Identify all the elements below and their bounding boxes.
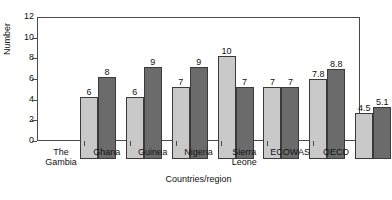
y-tick-mark xyxy=(32,58,37,59)
bar-value-label: 7 xyxy=(178,78,183,87)
bar: 9 xyxy=(190,67,208,159)
x-tick-mark xyxy=(267,141,268,146)
y-tick-mark xyxy=(32,38,37,39)
bar-chart-figure: Number 686979107777.88.84.55.1 Countries… xyxy=(0,0,392,200)
y-tick-label: 12 xyxy=(14,12,34,21)
y-tick-mark xyxy=(32,79,37,80)
y-tick-mark xyxy=(32,120,37,121)
x-tick-label: Ghana xyxy=(84,147,130,157)
bar-value-label: 7 xyxy=(242,78,247,87)
bar-value-label: 7 xyxy=(270,78,275,87)
bar-value-label: 8.8 xyxy=(330,60,343,69)
y-tick-label: 4 xyxy=(14,95,34,104)
x-tick-mark xyxy=(84,141,85,146)
bar: 5.1 xyxy=(373,107,391,159)
y-axis-title: Number xyxy=(0,9,14,69)
x-tick-mark xyxy=(130,141,131,146)
bar-group: 68 xyxy=(76,36,122,159)
bar-value-label: 7.8 xyxy=(312,70,325,79)
x-tick-label: Nigeria xyxy=(176,147,222,157)
bar-group: 4.55.1 xyxy=(351,36,392,159)
bar-value-label: 6 xyxy=(132,88,137,97)
x-tick-mark xyxy=(221,141,222,146)
bar-value-label: 8 xyxy=(104,68,109,77)
plot-area: 686979107777.88.84.55.1 xyxy=(37,17,360,141)
x-tick-label: ECOWAS xyxy=(267,147,313,157)
bar: 9 xyxy=(144,67,162,159)
y-tick-label: 6 xyxy=(14,74,34,83)
y-tick-mark xyxy=(32,141,37,142)
x-tick-label: Guinea xyxy=(130,147,176,157)
x-tick-label: The Gambia xyxy=(38,147,84,167)
bar-value-label: 9 xyxy=(150,58,155,67)
x-tick-mark xyxy=(176,141,177,146)
bar-value-label: 5.1 xyxy=(376,98,389,107)
bar-group: 79 xyxy=(168,36,214,159)
y-tick-label: 2 xyxy=(14,115,34,124)
bar-group: 69 xyxy=(122,36,168,159)
y-tick-label: 8 xyxy=(14,53,34,62)
y-tick-label: 10 xyxy=(14,33,34,42)
bars-layer: 686979107777.88.84.55.1 xyxy=(76,36,392,159)
bar-value-label: 9 xyxy=(196,58,201,67)
x-tick-label: Sierra Leone xyxy=(221,147,267,167)
x-axis-title: Countries/region xyxy=(37,174,360,184)
bar: 8.8 xyxy=(327,69,345,159)
y-tick-mark xyxy=(32,100,37,101)
bar-value-label: 7 xyxy=(288,78,293,87)
y-tick-label: 0 xyxy=(14,136,34,145)
bar-value-label: 10 xyxy=(222,47,232,56)
bar-value-label: 4.5 xyxy=(358,104,371,113)
x-tick-mark xyxy=(313,141,314,146)
x-tick-label: OECD xyxy=(313,147,359,157)
bar-value-label: 6 xyxy=(86,88,91,97)
